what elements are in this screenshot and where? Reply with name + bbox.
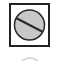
prohibited-icon — [11, 5, 48, 45]
partial-arc-icon — [17, 54, 43, 61]
prohibited-button[interactable] — [9, 3, 50, 47]
